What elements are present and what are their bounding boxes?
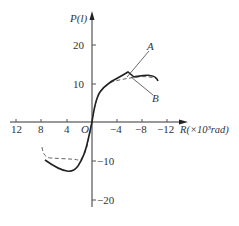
x-tick-label: −4 xyxy=(110,123,122,135)
x-tick-label: 4 xyxy=(64,123,70,135)
callout-b-leader xyxy=(131,77,153,95)
y-tick-label: −20 xyxy=(97,194,115,206)
y-tick-label: −10 xyxy=(97,155,115,167)
x-tick-label: 12 xyxy=(11,123,22,135)
callout-a-leader xyxy=(127,51,149,77)
x-tick-label: −12 xyxy=(157,123,174,135)
chart: P(l) R(×10³rad) O 20 10 −10 −20 12 8 4 −… xyxy=(0,0,239,226)
y-axis-arrow-icon xyxy=(90,11,95,20)
x-tick-label: 8 xyxy=(38,123,44,135)
x-axis-label: R(×10³rad) xyxy=(179,124,229,136)
x-tick-label: −8 xyxy=(135,123,147,135)
series-b-curve xyxy=(42,77,158,160)
y-tick-label: 20 xyxy=(73,39,85,51)
y-tick-label: 10 xyxy=(73,78,85,90)
series-a-label: A xyxy=(146,40,154,52)
y-axis-label: P(l) xyxy=(69,12,87,25)
series-b-label: B xyxy=(152,92,159,104)
origin-label: O xyxy=(81,123,89,135)
